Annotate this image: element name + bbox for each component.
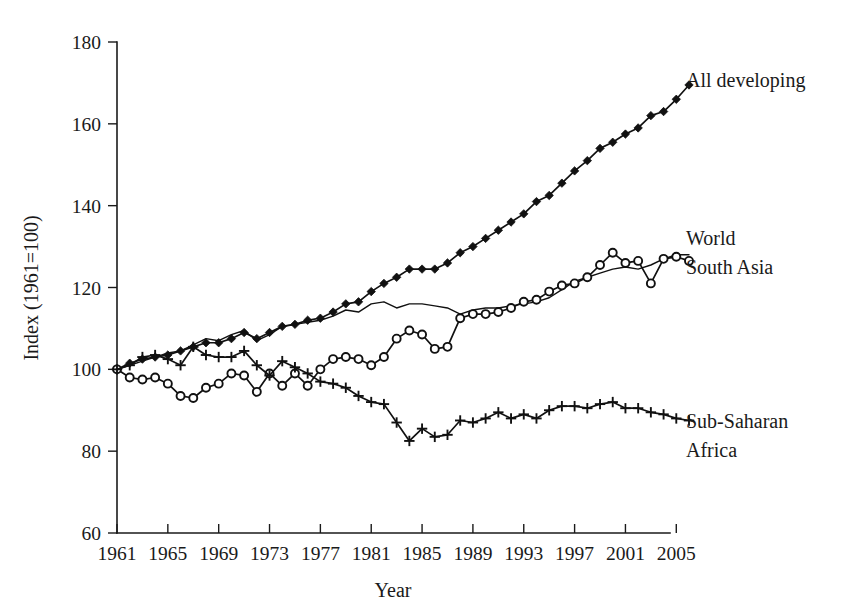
marker-diamond [507,218,515,226]
x-tick-label: 1961 [98,543,137,564]
marker-diamond [342,300,350,308]
marker-circle [583,273,591,281]
marker-circle [571,279,579,287]
series-label-south-asia: South Asia [686,256,773,278]
marker-circle [558,281,566,289]
series-label-africa: Africa [686,439,737,461]
marker-circle [215,380,223,388]
marker-circle [189,394,197,402]
y-tick-label: 80 [82,441,102,462]
marker-circle [545,288,553,296]
series-line [117,253,689,398]
series-all-developing [113,81,693,374]
marker-circle [380,353,388,361]
marker-circle [621,259,629,267]
x-tick-label: 1965 [148,543,187,564]
y-tick-label: 100 [72,359,101,380]
marker-circle [240,371,248,379]
marker-circle [532,296,540,304]
marker-diamond [494,226,502,234]
marker-circle [443,343,451,351]
marker-circle [418,331,426,339]
marker-circle [253,388,261,396]
marker-circle [647,279,655,287]
marker-circle [494,308,502,316]
marker-circle [393,335,401,343]
x-tick-label: 1977 [301,543,340,564]
marker-diamond [481,234,489,242]
marker-diamond [405,265,413,273]
series-line [117,347,689,441]
marker-circle [405,326,413,334]
marker-circle [507,304,515,312]
marker-circle [355,355,363,363]
x-tick-label: 1997 [555,543,594,564]
series-line [117,85,689,369]
marker-diamond [621,130,629,138]
y-tick-label: 160 [72,114,101,135]
marker-circle [431,345,439,353]
marker-diamond [609,138,617,146]
x-tick-label: 1973 [250,543,289,564]
marker-circle [202,384,210,392]
marker-circle [164,380,172,388]
marker-diamond [469,242,477,250]
marker-circle [634,257,642,265]
x-tick-label: 1993 [504,543,543,564]
marker-diamond [380,279,388,287]
marker-circle [138,376,146,384]
chart-figure: 6080100120140160180 19611965196919731977… [0,0,853,616]
x-tick-label: 2005 [657,543,696,564]
marker-circle [672,253,680,261]
marker-circle [329,355,337,363]
x-axis-ticks: 1961196519691973197719811985198919931997… [98,524,696,564]
x-tick-label: 1985 [403,543,442,564]
marker-diamond [418,265,426,273]
y-tick-label: 120 [72,278,101,299]
marker-circle [660,255,668,263]
y-axis-ticks: 6080100120140160180 [72,32,117,544]
y-tick-label: 140 [72,196,101,217]
series-layer [112,81,694,446]
marker-circle [482,310,490,318]
x-tick-label: 1969 [199,543,238,564]
marker-circle [596,261,604,269]
marker-circle [342,353,350,361]
x-tick-label: 1981 [352,543,391,564]
marker-circle [126,374,134,382]
marker-circle [151,374,159,382]
marker-circle [367,361,375,369]
marker-circle [316,365,324,373]
series-label-sub-saharan: Sub-Saharan [686,410,788,432]
marker-circle [469,310,477,318]
marker-diamond [431,265,439,273]
y-tick-label: 60 [82,523,102,544]
marker-circle [278,382,286,390]
marker-circle [227,369,235,377]
series-label-world: World [686,227,736,249]
marker-circle [520,298,528,306]
x-tick-label: 1989 [453,543,492,564]
marker-circle [177,392,185,400]
series-label-all-developing: All developing [686,69,805,92]
marker-circle [304,382,312,390]
line-chart-svg: 6080100120140160180 19611965196919731977… [0,0,853,616]
marker-circle [456,314,464,322]
x-axis-title: Year [375,579,412,601]
y-tick-label: 180 [72,32,101,53]
marker-circle [609,249,617,257]
x-tick-label: 2001 [606,543,645,564]
marker-diamond [392,273,400,281]
y-axis-title: Index (1961=100) [20,215,43,360]
